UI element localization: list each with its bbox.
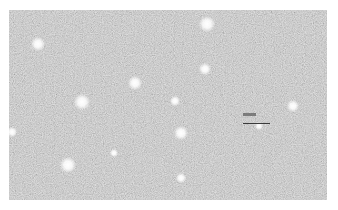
bright-spot: [60, 157, 76, 173]
micrograph-image: [9, 10, 327, 200]
bright-spot: [110, 149, 118, 157]
bright-spot: [128, 76, 142, 90]
bright-spot: [31, 37, 45, 51]
grain-texture: [9, 10, 327, 200]
bright-spot: [174, 126, 188, 140]
scale-bar-label: [243, 113, 256, 116]
bright-spot: [74, 94, 90, 110]
bright-spot: [170, 96, 180, 106]
bright-spot: [176, 173, 186, 183]
bright-spot: [199, 63, 211, 75]
scale-bar: [243, 123, 270, 124]
bright-spot: [287, 100, 299, 112]
bright-spot: [199, 16, 215, 32]
